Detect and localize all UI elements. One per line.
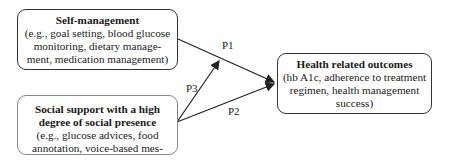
node-line: ment, medication management) (18, 53, 177, 66)
edge-label-p2: P2 (228, 105, 240, 117)
edge-p3 (177, 61, 219, 122)
node-line: regimen, health management (278, 84, 431, 97)
node-line: (hb A1c, adherence to treatment (278, 71, 431, 84)
node-title: Social support with a high (18, 103, 177, 116)
node-title: degree of social presence (18, 116, 177, 129)
node-line: monitoring, dietary manage- (18, 40, 177, 53)
node-self-management: Self-management (e.g., goal setting, blo… (17, 9, 178, 70)
node-social-support: Social support with a high degree of soc… (17, 95, 178, 155)
node-line: (e.g., goal setting, blood glucose (18, 27, 177, 40)
node-title: Self-management (18, 14, 177, 27)
node-health-outcomes: Health related outcomes (hb A1c, adheren… (277, 53, 432, 114)
node-line: annotation, voice-based mes- (18, 142, 177, 155)
node-title: Health related outcomes (278, 58, 431, 71)
node-line: success) (278, 97, 431, 110)
edge-label-p1: P1 (222, 39, 234, 51)
edge-label-p3: P3 (186, 82, 198, 94)
node-line: (e.g., glucose advices, food (18, 129, 177, 142)
